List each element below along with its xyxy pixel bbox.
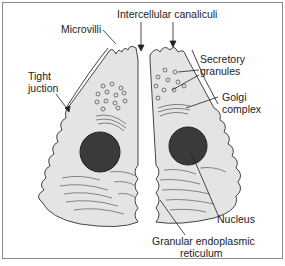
label-nucleus: Nucleus [217,213,255,225]
label-golgi-2: complex [222,103,261,115]
label-tight-junction-2: juction [28,82,58,94]
nucleus-right [169,127,207,165]
nucleus-left [80,132,120,172]
label-microvilli: Microvilli [61,23,101,35]
label-tight-junction-1: Tight [28,70,51,82]
label-rer-2: reticulum [180,247,223,259]
cell-illustration [0,0,285,266]
label-intercellular-canaliculi: Intercellular canaliculi [117,8,217,20]
label-rer-1: Granular endoplasmic [152,235,255,247]
label-secretory-granules-1: Secretory [200,53,245,65]
label-secretory-granules-2: granules [200,65,240,77]
label-golgi-1: Golgi [222,91,247,103]
